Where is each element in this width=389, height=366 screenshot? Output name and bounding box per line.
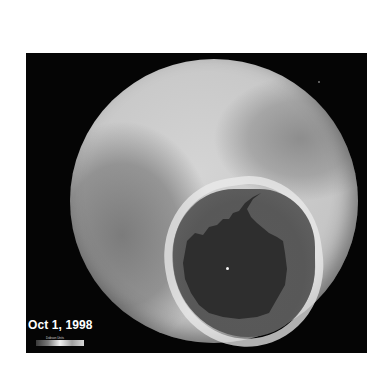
earth-globe — [70, 59, 358, 343]
south-pole-marker — [226, 267, 229, 270]
ozone-hole — [173, 189, 315, 337]
colorbar-ticks — [36, 346, 84, 349]
date-label: Oct 1, 1998 — [28, 318, 92, 332]
star-speck — [318, 81, 320, 83]
satellite-image-frame: Oct 1, 1998 Dobson Units — [26, 53, 367, 353]
colorbar-legend: Dobson Units — [36, 336, 84, 350]
antarctica-continent — [173, 189, 315, 337]
